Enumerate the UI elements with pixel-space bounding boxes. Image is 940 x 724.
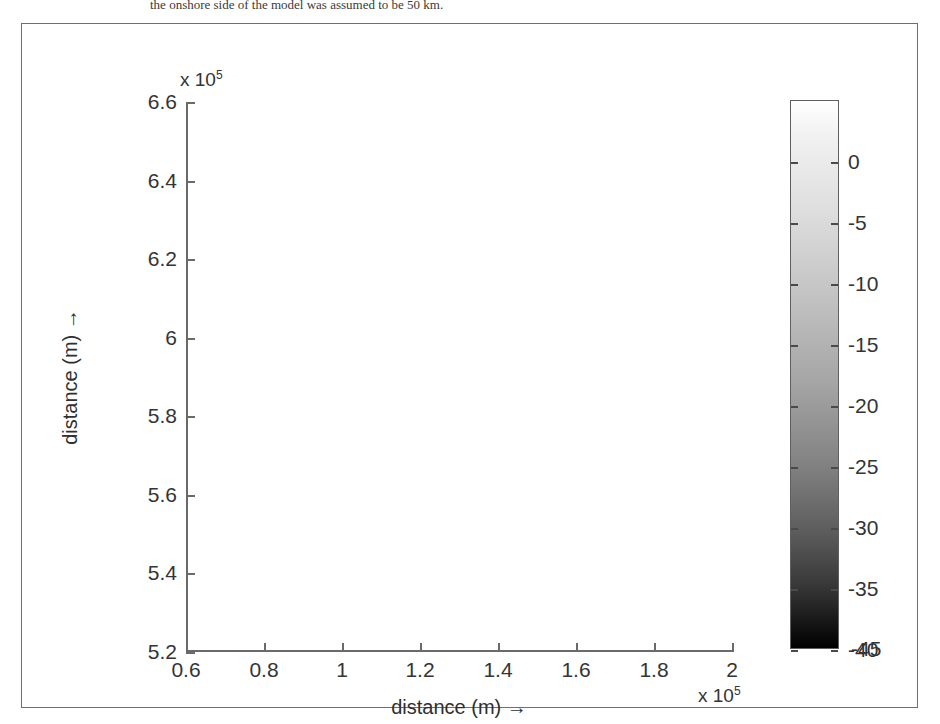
colorbar-tick-0 xyxy=(831,162,838,164)
colorbar-tick-left-m30 xyxy=(791,528,798,530)
y-tick-5.4 xyxy=(186,573,195,575)
y-tick-label-5.6: 5.6 xyxy=(148,483,177,507)
colorbar-gradient xyxy=(791,101,838,648)
y-tick-5.6 xyxy=(186,495,195,497)
y-tick-label-6.4: 6.4 xyxy=(148,169,177,193)
y-tick-label-6.6: 6.6 xyxy=(148,90,177,114)
colorbar-tick-m10 xyxy=(831,284,838,286)
colorbar-label-0: 0 xyxy=(848,150,860,174)
y-tick-label-6.2: 6.2 xyxy=(148,247,177,271)
colorbar-tick-left-m35 xyxy=(791,589,798,591)
colorbar-tick-m5 xyxy=(831,223,838,225)
x-tick-label-1.8: 1.8 xyxy=(639,658,668,682)
y-tick-5.2 xyxy=(186,652,195,654)
figure-caption-text: the onshore side of the model was assume… xyxy=(150,0,770,10)
x-tick-1.2 xyxy=(420,643,422,652)
colorbar-label-m25: -25 xyxy=(848,455,878,479)
colorbar-tick-left-m25 xyxy=(791,467,798,469)
x-axis-title: distance (m) → xyxy=(391,696,527,719)
y-axis-multiplier-exponent: 5 xyxy=(216,68,223,82)
colorbar-label-m5: -5 xyxy=(848,211,867,235)
figure-frame: x 105 x 105 distance (m) → distance (m) … xyxy=(21,23,918,708)
colorbar-label-m30: -30 xyxy=(848,516,878,540)
y-tick-6 xyxy=(186,338,195,340)
x-axis-multiplier-base: x 10 xyxy=(698,685,734,706)
x-tick-1.6 xyxy=(576,643,578,652)
y-tick-6.6 xyxy=(186,102,195,104)
colorbar-label-m35: -35 xyxy=(848,577,878,601)
colorbar-tick-left-m20 xyxy=(791,406,798,408)
colorbar-tick-left-m40 xyxy=(791,650,798,652)
colorbar-tick-m35 xyxy=(831,589,838,591)
colorbar-label-m10: -10 xyxy=(848,272,878,296)
axes-frame xyxy=(186,102,732,652)
colorbar-label-m20: -20 xyxy=(848,394,878,418)
colorbar-tick-m30 xyxy=(831,528,838,530)
x-tick-0.6 xyxy=(186,643,188,652)
y-axis-multiplier: x 105 xyxy=(180,68,223,91)
colorbar-tick-left-m5 xyxy=(791,223,798,225)
y-tick-label-5.4: 5.4 xyxy=(148,561,177,585)
x-axis-multiplier-exponent: 5 xyxy=(734,684,741,698)
colorbar-tick-m25 xyxy=(831,467,838,469)
x-tick-label-0.8: 0.8 xyxy=(249,658,278,682)
plot-axes: 6.6 6.4 6.2 6 5.8 5.6 5.4 5.2 0.6 0.8 1 … xyxy=(186,102,732,652)
colorbar: 0 -5 -10 -15 -20 -25 -30 -35 -40 xyxy=(790,100,839,649)
colorbar-tick-m20 xyxy=(831,406,838,408)
x-tick-label-1.2: 1.2 xyxy=(405,658,434,682)
x-tick-1.4 xyxy=(498,643,500,652)
y-tick-6.2 xyxy=(186,259,195,261)
colorbar-tick-m15 xyxy=(831,345,838,347)
x-tick-0.8 xyxy=(264,643,266,652)
y-tick-label-6: 6 xyxy=(165,326,177,350)
colorbar-tick-left-0 xyxy=(791,162,798,164)
x-tick-label-1: 1 xyxy=(336,658,348,682)
x-tick-label-1.6: 1.6 xyxy=(561,658,590,682)
x-tick-label-1.4: 1.4 xyxy=(483,658,512,682)
y-tick-5.8 xyxy=(186,416,195,418)
y-axis-multiplier-base: x 10 xyxy=(180,69,216,90)
x-tick-1.8 xyxy=(654,643,656,652)
y-tick-label-5.8: 5.8 xyxy=(148,404,177,428)
y-tick-6.4 xyxy=(186,181,195,183)
colorbar-label-m15: -15 xyxy=(848,333,878,357)
colorbar-label-m45: -45 xyxy=(851,637,881,661)
colorbar-tick-m40 xyxy=(831,650,838,652)
y-axis-title: distance (m) → xyxy=(59,309,82,445)
x-axis-multiplier: x 105 xyxy=(698,684,741,707)
colorbar-tick-left-m15 xyxy=(791,345,798,347)
x-tick-label-0.6: 0.6 xyxy=(171,658,200,682)
x-tick-1 xyxy=(342,643,344,652)
x-tick-2 xyxy=(732,643,734,652)
x-tick-label-2: 2 xyxy=(726,658,738,682)
colorbar-tick-left-m10 xyxy=(791,284,798,286)
